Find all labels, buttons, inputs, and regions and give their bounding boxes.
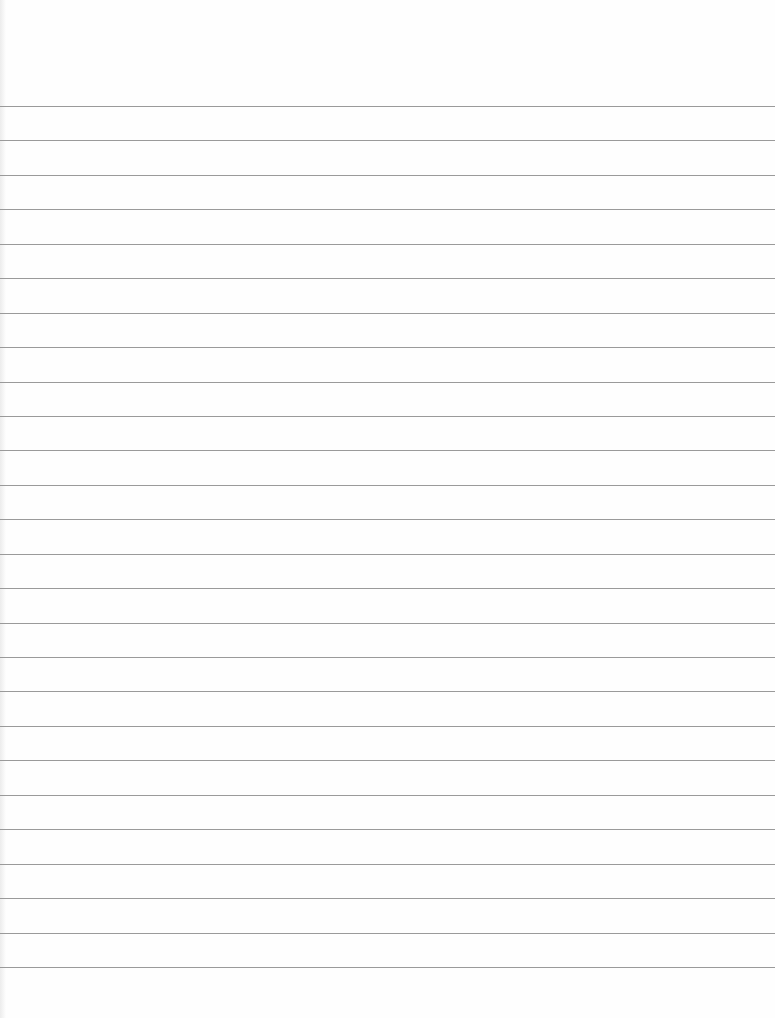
ruled-line — [0, 864, 775, 865]
ruled-line — [0, 313, 775, 314]
ruled-line — [0, 278, 775, 279]
ruled-line — [0, 347, 775, 348]
ruled-line — [0, 657, 775, 658]
ruled-line — [0, 485, 775, 486]
lined-paper-page — [0, 0, 775, 1018]
ruled-line — [0, 726, 775, 727]
ruled-line — [0, 623, 775, 624]
ruled-line — [0, 382, 775, 383]
ruled-line — [0, 175, 775, 176]
ruled-line — [0, 209, 775, 210]
ruled-line — [0, 140, 775, 141]
ruled-line — [0, 416, 775, 417]
page-edge-shadow — [0, 0, 6, 1018]
ruled-line — [0, 933, 775, 934]
ruled-line — [0, 588, 775, 589]
ruled-line — [0, 691, 775, 692]
ruled-line — [0, 244, 775, 245]
ruled-line — [0, 106, 775, 107]
ruled-line — [0, 967, 775, 968]
ruled-line — [0, 450, 775, 451]
ruled-line — [0, 519, 775, 520]
ruled-line — [0, 760, 775, 761]
ruled-line — [0, 795, 775, 796]
ruled-line — [0, 829, 775, 830]
ruled-line — [0, 554, 775, 555]
ruled-line — [0, 898, 775, 899]
